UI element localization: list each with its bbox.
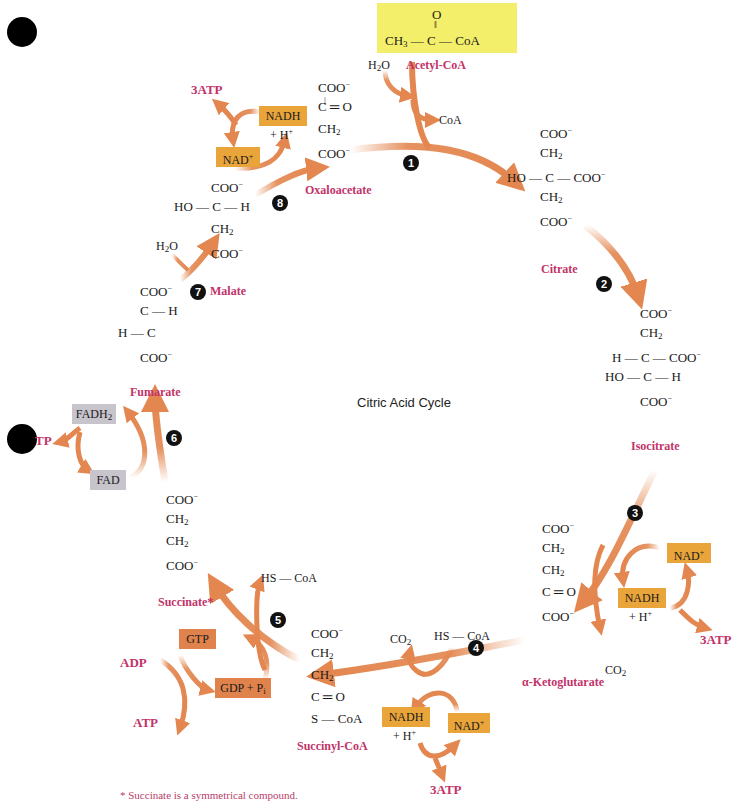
succinyl-coa-label: Succinyl-CoA (297, 740, 368, 752)
oxaloacetate-label: Oxaloacetate (305, 184, 372, 196)
alpha-ketoglutarate-label: α-Ketoglutarate (522, 676, 604, 688)
nad-box-step-8: NAD+ (216, 147, 260, 167)
hs-coa-step-4: HS — CoA (434, 630, 490, 642)
h-plus-step-8: + H+ (270, 128, 293, 141)
black-dot-left (7, 424, 37, 454)
arrow-atp-fad (78, 432, 88, 470)
step-marker-4: 4 (468, 640, 484, 656)
arrow-gdp-gtp (250, 638, 267, 680)
oxaloacetate-structure: COO− C ═ O CH2 COO− (318, 74, 352, 162)
coa-out-step-1: CoA (439, 114, 462, 126)
atp-step-3: 3ATP (700, 633, 732, 646)
atp-step-6-partial: TP (35, 434, 52, 447)
arrow-fad-fadh2 (128, 412, 145, 478)
water-step-7: H2O (156, 240, 178, 254)
oxaloacetate-bond-1: | (324, 96, 326, 105)
gdp-box: GDP + Pi (215, 678, 271, 698)
citrate-label: Citrate (541, 263, 578, 275)
malate-structure: COO− HO — C — H CH2 COO− (174, 174, 250, 262)
nadh-box-step-4: NADH (382, 707, 430, 727)
fadh2-box: FADH2 (72, 404, 116, 424)
arrow-atp-out-8 (218, 104, 236, 125)
arrow-step-1 (350, 146, 515, 182)
arrow-nadh-atp-3 (670, 570, 688, 608)
arrow-h2o-in (385, 70, 408, 96)
hs-coa-step-5: HS — CoA (261, 572, 317, 584)
arrow-atp-4 (420, 743, 455, 756)
nad-box-step-4: NAD+ (448, 713, 490, 733)
nadh-box-step-8: NADH (259, 106, 307, 126)
nad-box-step-3: NAD+ (667, 543, 711, 563)
arrow-atp-3 (680, 610, 705, 628)
footnote: * Succinate is a symmetrical compound. (120, 789, 298, 801)
acetyl-coa-label: Acetyl-CoA (406, 59, 466, 71)
acetyl-coa-formula: CH3 — C — CoA (385, 34, 480, 49)
h-plus-step-4: + H+ (393, 729, 416, 742)
arrow-step-6 (155, 398, 165, 482)
alpha-ketoglutarate-structure: COO− CH2 CH2 C ═ O COO− (542, 515, 576, 625)
co2-step-4: CO2 (390, 633, 411, 647)
atp-step-5: ATP (133, 716, 158, 729)
nadh-box-step-3: NADH (618, 588, 666, 608)
water-step-1: H2O (368, 59, 390, 73)
atp-step-8: 3ATP (191, 83, 223, 96)
co2-step-3: CO2 (605, 664, 626, 678)
step-marker-7: 7 (190, 284, 206, 300)
diagram-title: Citric Acid Cycle (357, 395, 451, 410)
step-marker-5: 5 (270, 612, 286, 628)
arrow-nadh-atp-8 (232, 111, 260, 140)
acetyl-coa-double-bond: ‖ (434, 20, 437, 30)
citrate-structure: COO− CH2 HO — C — COO− CH2 COO− (507, 120, 605, 230)
step-marker-8: 8 (272, 195, 288, 211)
succinyl-coa-structure: COO− CH2 CH2 C ═ O S — CoA (311, 620, 362, 730)
atp-step-4: 3ATP (430, 783, 462, 796)
adp-label: ADP (120, 656, 147, 669)
arrow-adp-atp (160, 660, 185, 728)
fumarate-structure: COO− C — H H — C COO− (118, 278, 178, 366)
arrow-nad-3 (623, 546, 660, 580)
succinate-structure: COO− CH2 CH2 COO− (166, 486, 198, 574)
arrow-atp-out-4 (435, 758, 442, 775)
step-marker-2: 2 (596, 276, 612, 292)
h-plus-step-3: + H+ (629, 610, 652, 623)
isocitrate-label: Isocitrate (631, 440, 680, 452)
fad-box: FAD (90, 470, 126, 490)
fumarate-label: Fumarate (130, 386, 181, 398)
step-marker-6: 6 (166, 430, 182, 446)
black-dot-top-left (7, 17, 37, 47)
succinate-label: Succinate* (158, 596, 213, 608)
step-marker-3: 3 (627, 505, 643, 521)
gtp-box: GTP (179, 629, 216, 649)
step-marker-1: 1 (403, 155, 419, 171)
isocitrate-structure: COO− CH2 H — C — COO− HO — C — H COO− (605, 300, 701, 410)
malate-label: Malate (210, 285, 246, 297)
